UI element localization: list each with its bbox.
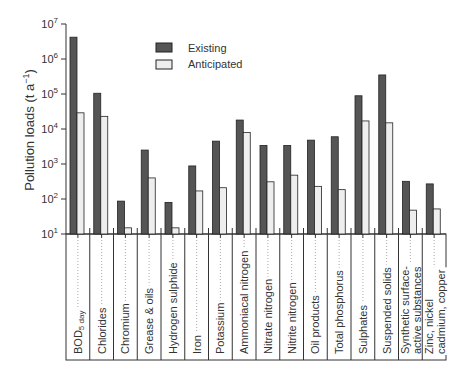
category-label-text-2: active substances	[411, 266, 423, 354]
bar-anticipated	[77, 113, 84, 234]
bar-existing	[118, 201, 125, 234]
bar-existing	[379, 75, 386, 234]
bar-anticipated	[362, 121, 369, 234]
y-tick-label: 101	[41, 226, 58, 240]
bar-anticipated	[315, 186, 322, 234]
category-label: Zinc, nickelcadmium, copper	[423, 267, 449, 355]
legend-swatch-existing	[156, 43, 172, 52]
legend-label-existing: Existing	[188, 42, 227, 54]
category-label-text: Oil products	[309, 295, 321, 354]
category-label-text: Iron	[191, 335, 203, 354]
category-label-text: Nitrate nitrogen	[262, 279, 274, 354]
y-axis-label-end: )	[22, 69, 37, 73]
bar-existing	[70, 37, 77, 234]
bar-existing	[236, 120, 243, 234]
category-label: Hydrogen sulphide	[167, 260, 180, 355]
bar-anticipated	[338, 190, 345, 234]
y-tick-exponent: 3	[54, 156, 59, 165]
category-label-text: Chlorides	[96, 307, 108, 354]
bar-anticipated	[433, 209, 440, 234]
bar-existing	[189, 166, 196, 234]
bar-existing	[165, 202, 172, 234]
category-label: Iron	[191, 333, 204, 355]
category-label-text: Suspended solids	[381, 267, 393, 354]
bar-anticipated	[410, 210, 417, 234]
category-label-text: Hydrogen sulphide	[167, 262, 179, 354]
legend-label-anticipated: Anticipated	[188, 58, 242, 70]
category-label-text: Grease & oils	[143, 287, 155, 354]
bar-existing	[213, 141, 220, 234]
category-label: Oil products	[309, 293, 322, 355]
bar-anticipated	[267, 182, 274, 234]
bar-existing	[331, 137, 338, 234]
category-label-text: Sulphates	[357, 305, 369, 354]
y-tick-label: 105	[41, 86, 58, 100]
category-label-sub: 5 day	[77, 311, 86, 331]
bar-existing	[284, 145, 291, 234]
category-label-text: Total phosphorus	[333, 270, 345, 354]
category-label: Sulphates	[357, 303, 370, 355]
category-label-text: Zinc, nickel	[423, 299, 435, 354]
y-tick-label: 104	[41, 121, 58, 135]
y-axis-label-exponent: −1	[21, 74, 31, 84]
y-axis-label: Pollution loads (t a−1)	[21, 69, 37, 191]
category-label: Grease & oils	[143, 285, 156, 355]
y-tick-label: 107	[41, 16, 58, 30]
y-tick-exponent: 2	[54, 191, 59, 200]
bar-anticipated	[125, 228, 132, 234]
bar-anticipated	[220, 188, 227, 234]
category-label: Total phosphorus	[333, 268, 346, 355]
category-label: Chromium	[119, 301, 132, 355]
category-label: Potassium	[214, 301, 227, 355]
y-tick-label: 103	[41, 156, 58, 170]
category-label-text: Synthetic surface-	[399, 266, 411, 354]
y-tick-exponent: 1	[54, 226, 59, 235]
bar-existing	[141, 150, 148, 234]
y-tick-label: 106	[41, 51, 58, 65]
bar-anticipated	[196, 191, 203, 234]
bar-existing	[426, 184, 433, 234]
bar-anticipated	[148, 178, 155, 234]
y-tick-exponent: 4	[54, 121, 59, 130]
category-label-text: Potassium	[214, 303, 226, 354]
pollution-loads-chart: 101102103104105106107Pollution loads (t …	[0, 0, 460, 379]
category-label-text: Ammoniacal nitrogen	[238, 251, 250, 354]
bar-existing	[355, 96, 362, 234]
bar-anticipated	[101, 116, 108, 234]
y-tick-exponent: 7	[54, 16, 59, 25]
category-label-text-2: cadmium, copper	[435, 269, 447, 354]
category-label: Chlorides	[96, 305, 109, 355]
category-label: Suspended solids	[381, 265, 394, 355]
bar-existing	[403, 181, 410, 234]
category-label: Nitrite nitrogen	[286, 280, 299, 355]
category-label-text: Nitrite nitrogen	[286, 282, 298, 354]
y-tick-exponent: 6	[54, 51, 59, 60]
category-label-text: Chromium	[119, 303, 131, 354]
bar-existing	[260, 145, 267, 234]
bar-anticipated	[386, 123, 393, 234]
category-label: Ammoniacal nitrogen	[238, 249, 251, 355]
bar-anticipated	[243, 132, 250, 234]
bar-existing	[94, 93, 101, 234]
legend-swatch-anticipated	[156, 60, 172, 69]
bar-anticipated	[291, 175, 298, 234]
y-tick-exponent: 5	[54, 86, 59, 95]
category-label: Synthetic surface-active substances	[399, 264, 425, 355]
category-label: BOD5 day	[72, 309, 86, 355]
y-tick-label: 102	[41, 191, 58, 205]
category-label: Nitrate nitrogen	[262, 277, 275, 355]
bar-existing	[308, 140, 315, 234]
bar-anticipated	[172, 228, 179, 234]
